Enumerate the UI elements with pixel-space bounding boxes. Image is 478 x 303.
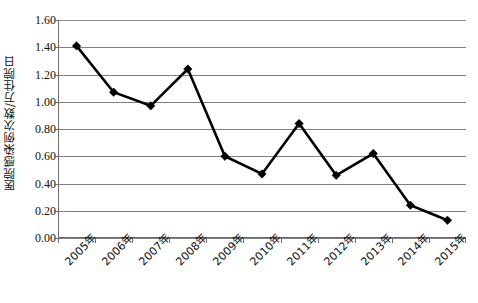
x-axis-tick-label: 2009年 [211, 232, 246, 267]
x-axis-tick-label: 2013年 [359, 232, 394, 267]
series-markers [72, 42, 451, 225]
data-point-marker [221, 152, 229, 160]
x-axis-tick-label: 2007年 [137, 232, 172, 267]
x-axis-tick-label: 2008年 [174, 232, 209, 267]
y-axis-title: 医院感染例次数/万住院日 [0, 0, 20, 245]
y-axis-tick-label: 1.60 [35, 14, 56, 26]
data-point-marker [443, 216, 451, 224]
y-axis-tick-label: 0.80 [35, 123, 56, 135]
x-axis-tick-label: 2010年 [248, 232, 283, 267]
x-axis-tick-label: 2012年 [322, 232, 357, 267]
y-axis-title-text: 医院感染例次数/万住院日 [2, 55, 18, 191]
x-axis-tick-labels: 2005年2006年2007年2008年2009年2010年2011年2012年… [58, 238, 466, 300]
y-axis-tick-label: 1.40 [35, 41, 56, 53]
x-axis-tick-label: 2014年 [397, 232, 432, 267]
y-axis-tick-label: 0.20 [35, 205, 56, 217]
plot-area [58, 20, 466, 238]
x-axis-tick-label: 2011年 [285, 232, 320, 267]
x-axis-tick-label: 2015年 [434, 232, 469, 267]
chart-container: 医院感染例次数/万住院日 0.000.200.400.600.801.001.2… [0, 0, 478, 303]
y-axis-tick-label: 0.40 [35, 178, 56, 190]
x-axis-tick-label: 2005年 [63, 232, 98, 267]
x-axis-tick-label: 2006年 [100, 232, 135, 267]
data-series [58, 20, 466, 238]
y-axis-tick-label: 0.60 [35, 150, 56, 162]
y-axis-tick-label: 1.00 [35, 96, 56, 108]
y-axis-tick-labels: 0.000.200.400.600.801.001.201.401.60 [22, 0, 56, 245]
y-axis-tick-label: 1.20 [35, 69, 56, 81]
y-axis-tick-label: 0.00 [35, 232, 56, 244]
series-line [77, 46, 448, 220]
